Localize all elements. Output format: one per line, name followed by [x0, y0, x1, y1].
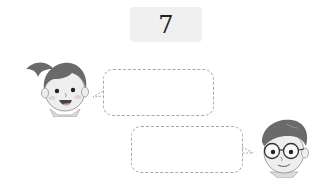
speech-tail-left [90, 88, 105, 102]
problem-number-badge: 7 [130, 7, 202, 42]
girl-speech-bubble[interactable] [103, 69, 214, 116]
girl-face-icon [22, 55, 92, 117]
problem-number: 7 [158, 11, 173, 39]
boy-speech-bubble[interactable] [131, 126, 243, 173]
boy-with-glasses-icon [252, 116, 312, 178]
